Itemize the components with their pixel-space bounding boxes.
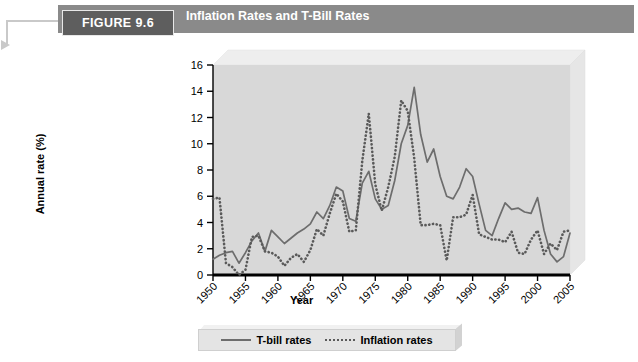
x-tick-label-3: 1965 [291, 280, 317, 306]
chart-container: Annual rate (%) Year 0246810121416 19501… [0, 40, 638, 362]
x-tick-label-8: 1990 [453, 280, 479, 306]
x-tick-label-9: 1995 [486, 280, 512, 306]
x-tick-label-11: 2005 [551, 280, 577, 306]
legend-line-dotted-icon [325, 339, 355, 341]
y-tick-label-5: 10 [191, 138, 203, 150]
chart-plot: 0246810121416 19501955196019651970197519… [0, 40, 638, 330]
page-title: Inflation Rates and T-Bill Rates [186, 9, 369, 23]
legend-item-tbill: T-bill rates [221, 334, 311, 346]
legend-label-tbill: T-bill rates [256, 334, 311, 346]
x-tick-label-1: 1955 [226, 280, 252, 306]
x-tick-label-2: 1960 [259, 280, 285, 306]
x-tick-label-10: 2000 [518, 280, 544, 306]
x-tick-label-7: 1985 [421, 280, 447, 306]
y-tick-label-8: 16 [191, 59, 203, 71]
chart-legend: T-bill rates Inflation rates [198, 325, 466, 351]
x-tick-label-6: 1980 [388, 280, 414, 306]
legend-line-solid-icon [221, 339, 251, 341]
y-tick-label-3: 6 [197, 190, 203, 202]
x-tick-label-5: 1975 [356, 280, 382, 306]
y-tick-label-1: 2 [197, 243, 203, 255]
plot-box-side-face [570, 50, 585, 275]
figure-number-badge: FIGURE 9.6 [62, 10, 174, 36]
legend-box: T-bill rates Inflation rates [198, 329, 456, 351]
y-axis-ticks: 0246810121416 [191, 59, 213, 281]
figure-number-label: FIGURE 9.6 [82, 16, 154, 30]
y-tick-label-4: 8 [197, 164, 203, 176]
x-axis-ticks: 1950195519601965197019751980198519901995… [194, 275, 577, 306]
legend-label-inflation: Inflation rates [360, 334, 432, 346]
legend-item-inflation: Inflation rates [325, 334, 432, 346]
y-tick-label-6: 12 [191, 112, 203, 124]
plot-box-top-face [213, 50, 585, 65]
y-tick-label-0: 0 [197, 269, 203, 281]
x-tick-label-0: 1950 [194, 280, 220, 306]
y-tick-label-2: 4 [197, 217, 203, 229]
x-tick-label-4: 1970 [323, 280, 349, 306]
legend-box-side-face [456, 323, 462, 350]
y-tick-label-7: 14 [191, 85, 203, 97]
